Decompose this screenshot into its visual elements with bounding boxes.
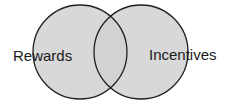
venn-diagram: Rewards Incentives <box>0 0 235 106</box>
incentives-label: Incentives <box>149 46 217 63</box>
rewards-label: Rewards <box>13 47 72 64</box>
